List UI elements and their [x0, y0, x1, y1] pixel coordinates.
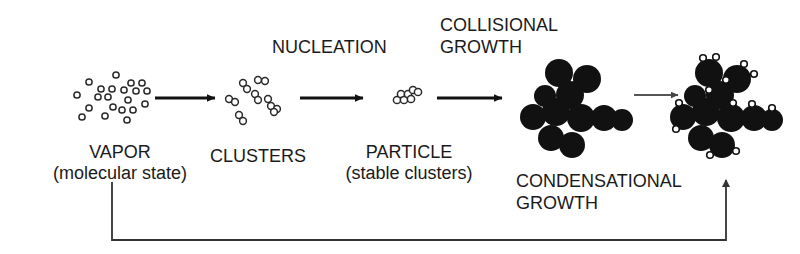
aerosol-growth-diagram: NUCLEATION COLLISIONAL GROWTH CONDENSATI…	[0, 0, 800, 254]
coated-agglomerate	[670, 54, 783, 159]
process-label-condensational-growth: CONDENSATIONAL GROWTH	[516, 170, 682, 214]
process-label-collisional-growth: COLLISIONAL GROWTH	[440, 14, 558, 58]
stage-label-vapor: VAPOR	[89, 142, 151, 163]
vapor-molecule-cloud	[74, 72, 150, 123]
clusters-group	[226, 77, 281, 125]
diagram-graphics-layer	[0, 0, 800, 254]
stage-label-clusters: CLUSTERS	[210, 146, 306, 167]
stage-sublabel-particle: (stable clusters)	[345, 163, 472, 184]
stable-particle-cluster	[393, 86, 421, 103]
process-label-nucleation: NUCLEATION	[272, 36, 387, 58]
black-agglomerate	[520, 59, 633, 158]
stage-sublabel-vapor: (molecular state)	[53, 163, 187, 184]
stage-label-particle: PARTICLE	[366, 142, 452, 163]
